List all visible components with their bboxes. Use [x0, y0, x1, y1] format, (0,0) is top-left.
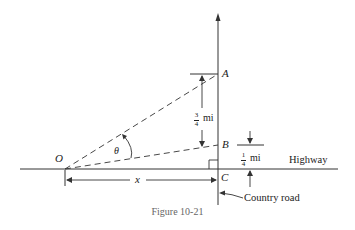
leader-arrow-icon	[219, 191, 225, 196]
country-road-label: Country road	[244, 193, 300, 204]
fraction-BC-denominator: 4	[242, 161, 246, 168]
angle-label-theta: θ	[114, 146, 119, 156]
fraction-BC: 1 4	[241, 152, 246, 168]
fraction-AB-numerator: 3	[195, 112, 199, 119]
distance-x-label: x	[135, 174, 140, 185]
north-arrow-icon	[216, 13, 221, 21]
figure-caption: Figure 10-21	[0, 206, 355, 217]
point-label-B: B	[222, 139, 229, 150]
point-label-A: A	[222, 68, 229, 79]
right-angle-marker	[209, 160, 218, 169]
fraction-BC-numerator: 1	[242, 152, 246, 159]
angle-theta-arc	[124, 136, 132, 158]
sight-line-OB	[65, 145, 218, 169]
diagram-canvas	[0, 0, 355, 230]
point-label-C: C	[221, 172, 228, 183]
unit-BC: mi	[250, 153, 261, 163]
point-label-O: O	[55, 153, 63, 164]
fraction-AB-denominator: 4	[195, 121, 199, 128]
unit-AB: mi	[203, 113, 214, 123]
highway-label: Highway	[289, 155, 328, 166]
fraction-AB: 3 4	[194, 112, 199, 128]
